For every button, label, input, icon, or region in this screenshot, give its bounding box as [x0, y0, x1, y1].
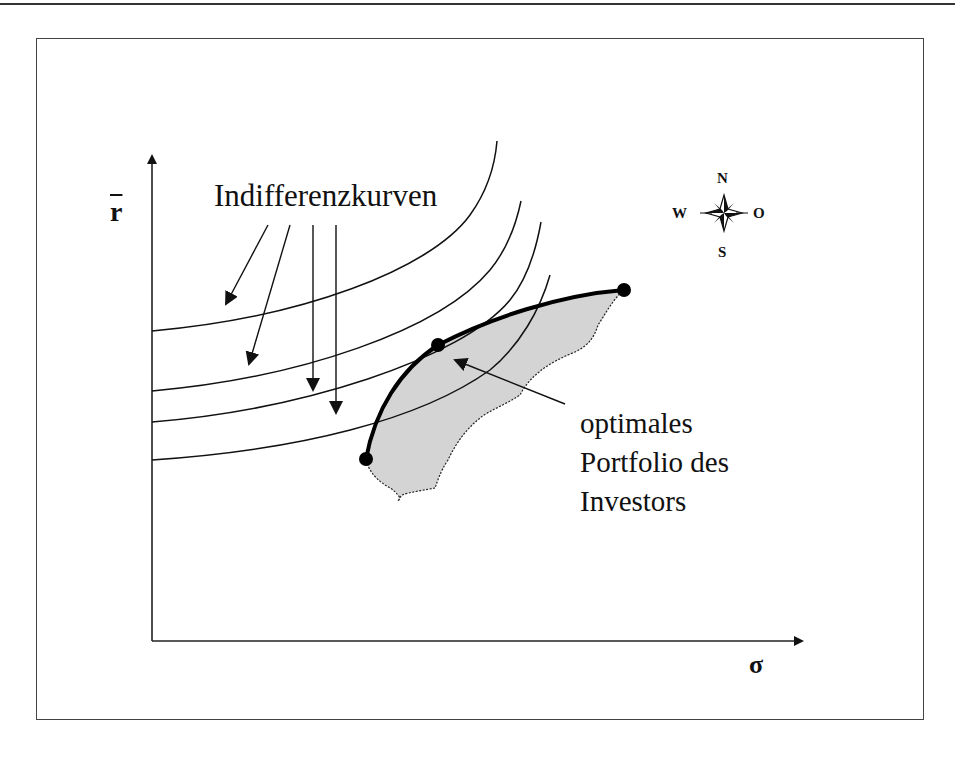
optimal-portfolio-label: optimales Portfolio des Investors — [580, 404, 729, 521]
optimal-portfolio-label-line-3: Investors — [580, 482, 729, 521]
compass-east-label: O — [753, 205, 765, 222]
optimal-portfolio-point — [431, 338, 445, 352]
indifference-curve-1 — [152, 141, 497, 331]
x-axis-label: σ — [749, 650, 763, 680]
arrow-to-curve-1 — [226, 225, 268, 304]
y-axis-label: r — [110, 196, 122, 228]
compass-south-label: S — [718, 244, 726, 261]
portfolio-diagram — [0, 0, 960, 759]
indifference-curves-label: Indifferenzkurven — [214, 178, 437, 214]
compass-rose-icon — [700, 195, 748, 231]
optimal-portfolio-label-line-2: Portfolio des — [580, 443, 729, 482]
optimal-portfolio-label-line-1: optimales — [580, 404, 729, 443]
frontier-point-min-variance — [359, 452, 373, 466]
frontier-point-max-return — [617, 283, 631, 297]
compass-west-label: W — [672, 205, 687, 222]
arrow-to-curve-2 — [249, 225, 290, 364]
compass-north-label: N — [717, 170, 728, 187]
